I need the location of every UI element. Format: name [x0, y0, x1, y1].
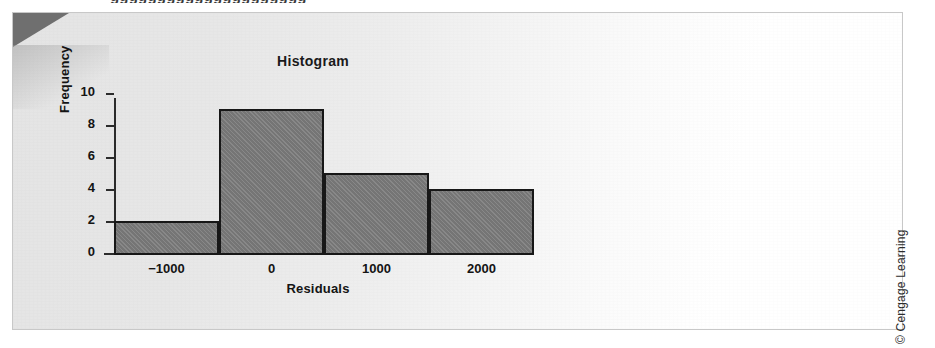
x-axis-tick-label: 2000	[467, 261, 496, 276]
copyright-credit: © Cengage Learning	[894, 229, 908, 344]
histogram-bar	[114, 221, 219, 255]
histogram-chart: Histogram Frequency 0246810 −10000100020…	[13, 13, 903, 330]
x-axis-title: Residuals	[208, 281, 428, 296]
y-axis-tick-label: 10	[81, 84, 95, 99]
y-axis-tick-label: 8	[88, 116, 95, 131]
y-axis-tick: 10	[106, 93, 114, 95]
y-axis-title: Frequency	[57, 45, 72, 113]
plot-area: 0246810 −1000010002000	[114, 93, 534, 255]
scanned-page: ggggggggggggggggggggg Histogram Frequenc…	[0, 0, 935, 348]
histogram-bar	[429, 189, 534, 255]
y-axis-tick: 6	[106, 157, 114, 159]
figure-panel: Histogram Frequency 0246810 −10000100020…	[12, 12, 903, 330]
y-axis-tick: 0	[106, 253, 114, 255]
histogram-bar	[219, 109, 324, 255]
chart-title: Histogram	[203, 53, 423, 69]
y-axis-tick: 4	[106, 189, 114, 191]
y-axis-tick-label: 2	[88, 212, 95, 227]
y-axis-tick: 8	[106, 125, 114, 127]
histogram-bar	[324, 173, 429, 255]
y-axis-tick-label: 4	[88, 180, 95, 195]
cutoff-body-text: ggggggggggggggggggggg	[110, 0, 810, 3]
y-axis-tick-label: 6	[88, 148, 95, 163]
x-axis-tick-label: −1000	[148, 261, 185, 276]
x-axis-tick-label: 0	[268, 261, 275, 276]
y-axis-tick-label: 0	[88, 244, 95, 259]
y-axis-tick: 2	[106, 221, 114, 223]
x-axis-tick-label: 1000	[362, 261, 391, 276]
